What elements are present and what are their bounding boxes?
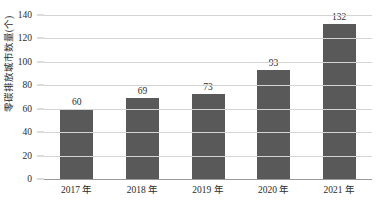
- x-tick-label: 2019 年: [192, 182, 223, 196]
- bar-chart: 零碳排放城市数量(个) 60697393132 0204060801001201…: [0, 0, 380, 214]
- y-tick-label: 40: [0, 127, 32, 137]
- bar[interactable]: [257, 70, 290, 179]
- bar-value-label: 93: [269, 58, 279, 68]
- gridline: [44, 156, 372, 157]
- y-tick-label: 20: [0, 151, 32, 161]
- gridline: [44, 85, 372, 86]
- x-axis-labels: 2017 年2018 年2019 年2020 年2021 年: [44, 182, 372, 198]
- gridline: [44, 15, 372, 16]
- x-tick-label: 2020 年: [258, 182, 289, 196]
- bars-layer: 60697393132: [44, 15, 372, 179]
- y-tick-mark: [37, 61, 44, 62]
- y-tick-mark: [37, 15, 44, 16]
- y-tick-label: 140: [0, 10, 32, 20]
- bar[interactable]: [192, 94, 225, 180]
- gridline: [44, 132, 372, 133]
- y-tick-mark: [37, 179, 44, 180]
- y-tick-mark: [37, 38, 44, 39]
- bar-value-label: 73: [203, 82, 213, 92]
- bar-group[interactable]: 73: [192, 15, 225, 179]
- gridline: [44, 62, 372, 63]
- y-tick-label: 100: [0, 57, 32, 67]
- y-tick-mark: [37, 132, 44, 133]
- y-tick-label: 80: [0, 80, 32, 90]
- x-tick-label: 2018 年: [127, 182, 158, 196]
- bar-value-label: 132: [332, 12, 346, 22]
- gridline: [44, 38, 372, 39]
- x-tick-label: 2017 年: [61, 182, 92, 196]
- bar[interactable]: [126, 98, 159, 179]
- y-tick-mark: [37, 155, 44, 156]
- axis-baseline: [44, 179, 372, 180]
- bar-group[interactable]: 132: [323, 15, 356, 179]
- bar-group[interactable]: 60: [60, 15, 93, 179]
- plot-area: 60697393132 020406080100120140: [44, 15, 372, 179]
- bar-value-label: 69: [138, 86, 148, 96]
- bar-value-label: 60: [72, 97, 82, 107]
- y-tick-label: 0: [0, 174, 32, 184]
- gridline: [44, 109, 372, 110]
- bar-group[interactable]: 93: [257, 15, 290, 179]
- y-tick-mark: [37, 85, 44, 86]
- y-tick-mark: [37, 108, 44, 109]
- y-tick-label: 120: [0, 33, 32, 43]
- bar-group[interactable]: 69: [126, 15, 159, 179]
- bar[interactable]: [60, 109, 93, 179]
- x-tick-label: 2021 年: [324, 182, 355, 196]
- y-tick-label: 60: [0, 104, 32, 114]
